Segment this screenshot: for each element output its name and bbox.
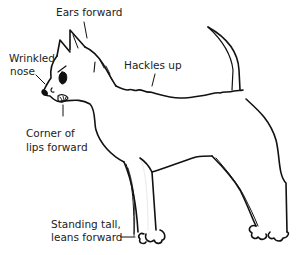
label-standing-tall-line2: leans forward: [51, 231, 123, 244]
tail: [208, 27, 240, 90]
belly: [152, 156, 212, 172]
front-leg-right: [140, 158, 156, 230]
hind-paw-back: [249, 226, 266, 240]
label-wrinkled-nose-line2: nose: [10, 65, 35, 78]
label-ears-forward: Ears forward: [56, 6, 122, 19]
eye: [59, 72, 67, 84]
dog-posture-diagram: Ears forward Wrinkled nose Hackles up Co…: [0, 0, 307, 255]
leader-hackles: [152, 74, 155, 86]
front-paw-right: [146, 230, 165, 243]
head-top: [85, 47, 116, 86]
ear-left: [57, 40, 70, 56]
leader-nose: [36, 75, 45, 84]
hind-paw-front: [268, 232, 288, 241]
nose-wrinkle: [51, 88, 54, 92]
back-line: [116, 86, 243, 98]
leader-ears: [84, 22, 87, 38]
hind-leg-inner: [212, 156, 256, 226]
front-leg-left: [124, 162, 138, 232]
label-hackles-up: Hackles up: [124, 59, 182, 72]
label-corner-of-lips-line1: Corner of: [26, 127, 75, 140]
label-standing-tall-line1: Standing tall,: [51, 218, 121, 231]
label-corner-of-lips-line2: lips forward: [26, 141, 88, 154]
label-wrinkled-nose-line1: Wrinkled: [9, 52, 55, 65]
nose: [42, 90, 47, 95]
